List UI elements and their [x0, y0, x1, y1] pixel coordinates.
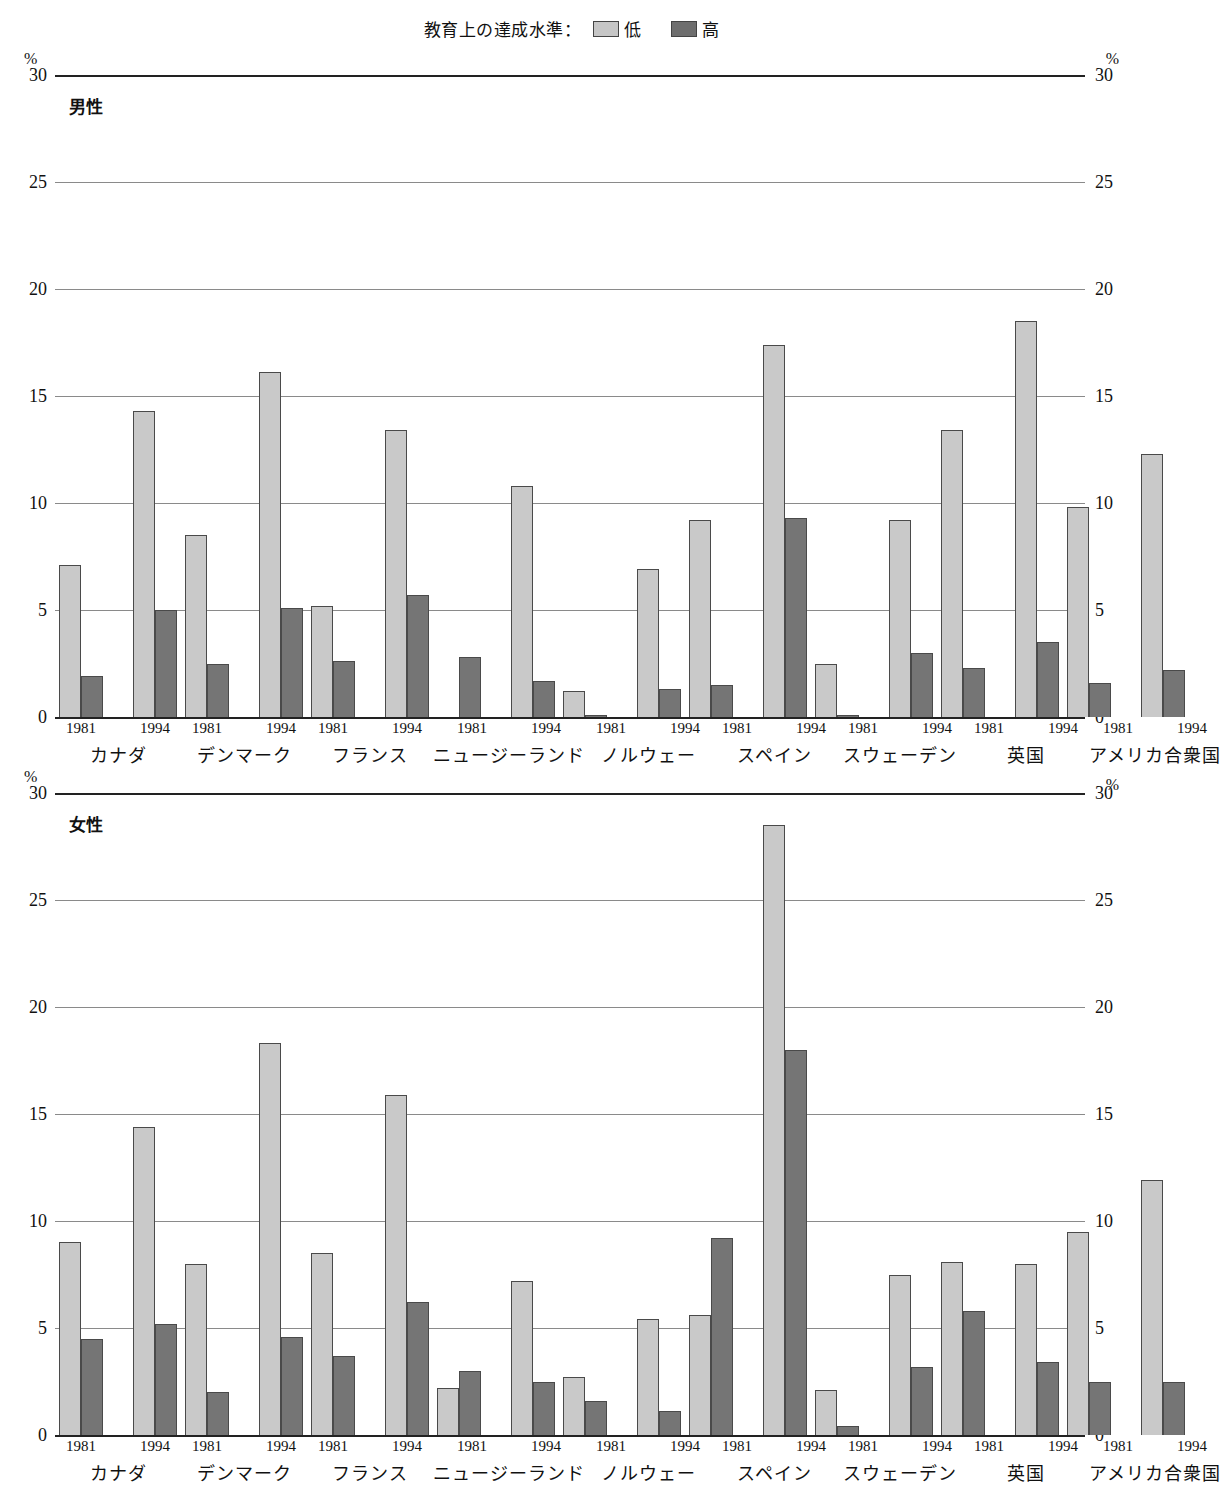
- x-label-group: 19811994フランス: [307, 720, 433, 770]
- legend-title: 教育上の達成水準：: [424, 16, 582, 41]
- chart-panel-male: % % 男性 30 25 20 15 10 5 0 30 25 20 15 10…: [0, 50, 1143, 770]
- legend-label-high: 高: [702, 16, 719, 41]
- year-tick-label: 1981: [55, 1438, 107, 1455]
- country-group: [433, 793, 559, 1435]
- year-tick-labels: 19811994: [585, 720, 711, 737]
- year-tick-label: 1994: [1037, 720, 1089, 737]
- year-tick-label: 1994: [1166, 720, 1218, 737]
- x-axis-labels-female: 19811994カナダ19811994デンマーク19811994フランス1981…: [55, 1438, 1085, 1488]
- country-group: [1063, 75, 1189, 717]
- country-group: [433, 75, 559, 717]
- year-block: [129, 75, 181, 717]
- bar-high: [81, 1339, 103, 1435]
- legend-label-low: 低: [624, 16, 641, 41]
- country-label: スペイン: [711, 1459, 837, 1485]
- bar-high: [281, 1337, 303, 1435]
- gridline-0-female: [55, 1435, 1085, 1437]
- chart-legend: 教育上の達成水準： 低 高: [0, 16, 1143, 41]
- bar-low: [59, 1242, 81, 1435]
- country-label: 英国: [963, 741, 1089, 767]
- bar-low: [763, 345, 785, 717]
- year-tick-label: 1994: [255, 1438, 307, 1455]
- bar-low: [563, 1377, 585, 1435]
- bar-low: [889, 1275, 911, 1436]
- bar-high: [333, 661, 355, 717]
- ytick-left-15-male: 15: [29, 387, 47, 405]
- bar-low: [311, 1253, 333, 1435]
- year-block: [759, 75, 811, 717]
- ytick-left-20-male: 20: [29, 280, 47, 298]
- year-tick-labels: 19811994: [181, 720, 307, 737]
- legend-entry-low: 低: [593, 16, 641, 41]
- country-label: カナダ: [55, 1459, 181, 1485]
- country-group: [307, 75, 433, 717]
- year-tick-labels: 19811994: [837, 1438, 963, 1455]
- bar-low: [1015, 321, 1037, 717]
- ytick-left-20-female: 20: [29, 998, 47, 1016]
- year-tick-label: 1981: [585, 720, 637, 737]
- year-tick-label: 1994: [785, 1438, 837, 1455]
- bar-high: [533, 681, 555, 717]
- year-tick-label: 1981: [837, 1438, 889, 1455]
- country-group: [181, 793, 307, 1435]
- bar-low: [385, 1095, 407, 1435]
- year-block: [381, 793, 433, 1435]
- year-tick-label: 1994: [129, 720, 181, 737]
- year-block: [559, 75, 611, 717]
- year-tick-labels: 19811994: [1089, 1438, 1221, 1455]
- year-tick-label: 1994: [911, 1438, 963, 1455]
- bar-high: [659, 1411, 681, 1435]
- bar-low: [59, 565, 81, 717]
- country-label: ノルウェー: [585, 1459, 711, 1485]
- x-label-group: 19811994カナダ: [55, 720, 181, 770]
- bar-groups-male: [55, 75, 1085, 717]
- bar-high: [1163, 1382, 1185, 1436]
- year-tick-label: 1981: [711, 1438, 763, 1455]
- bar-high: [533, 1382, 555, 1436]
- bar-high: [207, 664, 229, 718]
- year-tick-labels: 19811994: [963, 720, 1089, 737]
- bar-high: [785, 518, 807, 717]
- year-tick-label: 1981: [1092, 720, 1144, 737]
- year-tick-label: 1994: [659, 720, 711, 737]
- year-block: [937, 75, 989, 717]
- country-group: [937, 75, 1063, 717]
- ytick-left-15-female: 15: [29, 1105, 47, 1123]
- year-block: [885, 75, 937, 717]
- country-group: [1063, 793, 1189, 1435]
- year-block: [937, 793, 989, 1435]
- bar-groups-female: [55, 793, 1085, 1435]
- year-tick-labels: 19811994: [307, 1438, 433, 1455]
- x-label-group: 19811994スウェーデン: [837, 720, 963, 770]
- country-group: [685, 793, 811, 1435]
- bar-low: [511, 486, 533, 717]
- year-tick-label: 1994: [520, 720, 572, 737]
- x-label-group: 19811994英国: [963, 720, 1089, 770]
- x-label-group: 19811994アメリカ合衆国: [1089, 720, 1221, 770]
- country-label: フランス: [307, 1459, 433, 1485]
- year-block: [1011, 75, 1063, 717]
- x-label-group: 19811994スペイン: [711, 720, 837, 770]
- bar-high: [459, 1371, 481, 1435]
- bar-high: [711, 1238, 733, 1435]
- bar-high: [1037, 642, 1059, 717]
- country-group: [559, 793, 685, 1435]
- x-label-group: 19811994ニュージーランド: [433, 720, 585, 770]
- year-tick-labels: 19811994: [963, 1438, 1089, 1455]
- year-tick-label: 1981: [837, 720, 889, 737]
- country-group: [55, 793, 181, 1435]
- bar-low: [941, 1262, 963, 1435]
- country-group: [559, 75, 685, 717]
- country-label: フランス: [307, 741, 433, 767]
- year-tick-label: 1994: [129, 1438, 181, 1455]
- x-label-group: 19811994デンマーク: [181, 1438, 307, 1488]
- bar-low: [511, 1281, 533, 1435]
- legend-entry-high: 高: [671, 16, 719, 41]
- x-label-group: 19811994ニュージーランド: [433, 1438, 585, 1488]
- bar-high: [281, 608, 303, 717]
- bar-low: [1141, 1180, 1163, 1435]
- country-label: ニュージーランド: [433, 741, 585, 767]
- x-label-group: 19811994スウェーデン: [837, 1438, 963, 1488]
- bar-low: [133, 411, 155, 717]
- bar-high: [963, 668, 985, 717]
